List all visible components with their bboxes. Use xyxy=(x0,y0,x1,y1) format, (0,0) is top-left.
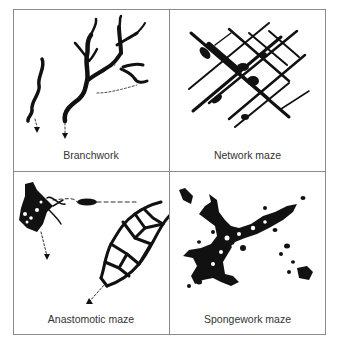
branchwork-illustration xyxy=(13,9,169,171)
panel-label: Anastomotic maze xyxy=(13,313,169,325)
panel-spongework: Spongework maze xyxy=(169,172,326,335)
panel-network: Network maze xyxy=(169,9,326,171)
panel-label: Branchwork xyxy=(13,149,169,161)
network-illustration xyxy=(169,9,326,171)
spongework-illustration xyxy=(169,172,326,335)
panel-label: Spongework maze xyxy=(169,313,326,325)
panel-branchwork: Branchwork xyxy=(13,9,169,171)
anastomotic-illustration xyxy=(13,172,169,335)
panel-anastomotic: Anastomotic maze xyxy=(13,172,169,335)
panel-label: Network maze xyxy=(169,149,326,161)
